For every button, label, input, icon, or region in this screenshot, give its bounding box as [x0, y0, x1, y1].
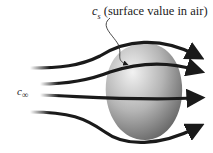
flow-diagram [0, 0, 213, 153]
diagram: cs (surface value in air) c∞ [0, 0, 213, 153]
surface-concentration-label: cs (surface value in air) [92, 4, 208, 21]
freestream-concentration-label: c∞ [17, 85, 28, 100]
particle-blob [106, 43, 182, 140]
